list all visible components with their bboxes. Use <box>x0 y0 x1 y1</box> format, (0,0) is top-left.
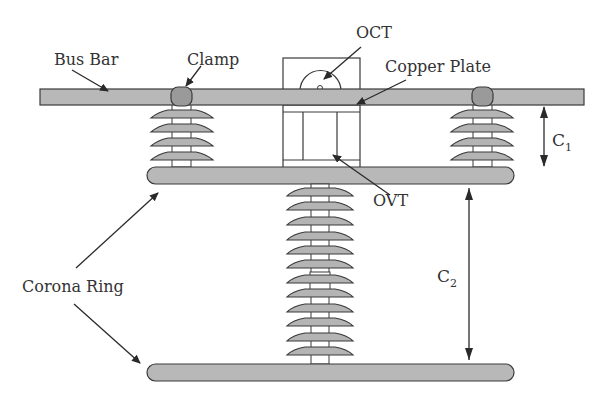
c2-dimension <box>465 188 473 360</box>
upper-corona-ring <box>147 167 514 184</box>
c1-label: C1 <box>552 130 572 154</box>
clamp-arrow <box>186 66 201 86</box>
oct-label: OCT <box>356 23 392 42</box>
ovt-housing <box>283 105 360 169</box>
clamp-left <box>171 87 192 106</box>
bus-bar-label: Bus Bar <box>54 50 119 69</box>
corona-ring-upper-arrow <box>76 193 158 268</box>
corona-ring-label: Corona Ring <box>22 277 124 296</box>
bus-bar-arrow <box>72 70 108 91</box>
oct-housing <box>283 58 360 91</box>
ovt-label: OVT <box>373 191 408 210</box>
bus-bar <box>40 89 584 105</box>
copper-plate-label: Copper Plate <box>385 57 491 76</box>
right-insulator <box>451 103 513 167</box>
c1-dimension <box>540 106 548 167</box>
corona-ring-lower-arrow <box>74 304 140 363</box>
clamp-label: Clamp <box>187 50 239 69</box>
lower-corona-ring <box>147 364 514 381</box>
center-insulator <box>287 184 353 364</box>
diagram-canvas: Bus Bar Clamp OCT Copper Plate OVT Coron… <box>0 0 601 406</box>
left-insulator <box>151 103 213 167</box>
clamp-right <box>472 87 493 106</box>
c2-label: C2 <box>437 266 457 290</box>
